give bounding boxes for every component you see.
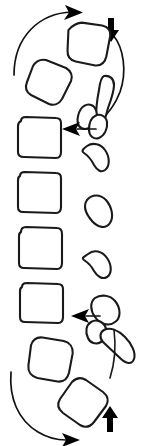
spinous-process-1 (83, 144, 109, 171)
vertebra-body-6 (20, 283, 63, 323)
vertebra-body-8 (58, 378, 107, 426)
vertebra-body-7 (26, 335, 74, 383)
vertebra-body-3 (18, 117, 61, 158)
spinous-process-upper-tip (89, 115, 107, 139)
axial-load-arrow-up (102, 406, 118, 432)
vertebra-body-4 (18, 172, 61, 213)
spinous-process-3 (83, 251, 111, 278)
spinous-process-lower-tip (100, 329, 134, 363)
spine-diagram-svg: Lumbar spine lateral line diagram with r… (0, 0, 150, 446)
vertebra-body-5 (19, 227, 62, 269)
vertebra-body-1 (65, 20, 114, 69)
vertebra-body-2 (26, 60, 72, 105)
spine-diagram-canvas: Lumbar spine lateral line diagram with r… (0, 0, 150, 446)
spinous-process-2 (85, 196, 112, 227)
axial-arrow-up-glyph (102, 406, 118, 432)
